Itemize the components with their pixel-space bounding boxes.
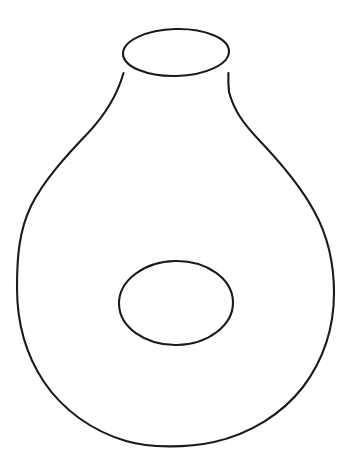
vase-line-drawing	[0, 0, 352, 469]
figure-canvas	[0, 0, 352, 469]
canvas-background	[0, 0, 352, 469]
